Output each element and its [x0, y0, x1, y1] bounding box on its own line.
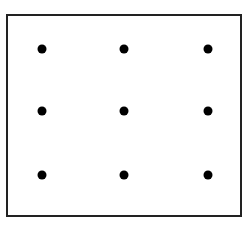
grid-dot	[204, 45, 213, 54]
grid-dot	[204, 171, 213, 180]
grid-dot	[120, 171, 129, 180]
grid-dot	[38, 171, 47, 180]
grid-dot	[120, 45, 129, 54]
grid-dot	[38, 107, 47, 116]
grid-dot	[120, 107, 129, 116]
grid-dot	[204, 107, 213, 116]
grid-dot	[38, 45, 47, 54]
